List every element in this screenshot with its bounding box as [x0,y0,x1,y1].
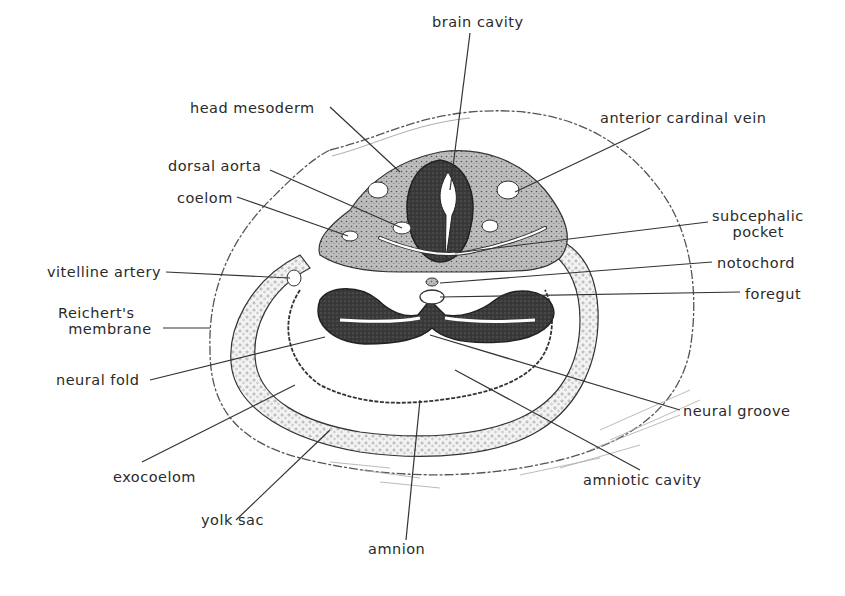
label-vitelline-artery: vitelline artery [47,264,161,280]
label-anterior-cardinal-vein: anterior cardinal vein [600,110,766,126]
diagram-artwork [0,0,845,596]
label-head-mesoderm: head mesoderm [190,100,315,116]
label-notochord: notochord [717,255,795,271]
label-subcephalic-pocket: subcephalic pocket [712,208,804,240]
label-foregut: foregut [745,286,801,302]
label-yolk-sac: yolk sac [201,512,264,528]
label-exocoelom: exocoelom [113,469,196,485]
neural-tube-brain [407,160,473,262]
label-dorsal-aorta: dorsal aorta [168,158,261,174]
label-brain-cavity: brain cavity [432,14,524,30]
label-amnion: amnion [368,541,425,557]
label-neural-groove: neural groove [683,403,790,419]
label-neural-fold: neural fold [56,372,140,388]
label-reicherts-membrane: Reichert's membrane [58,305,152,337]
label-amniotic-cavity: amniotic cavity [583,472,702,488]
embryo-cross-section-diagram: brain cavity head mesoderm anterior card… [0,0,845,596]
anterior-cardinal-vein-vessel [497,181,519,199]
label-coelom: coelom [177,190,233,206]
notochord-structure [426,278,438,286]
coelom-space [342,231,358,241]
